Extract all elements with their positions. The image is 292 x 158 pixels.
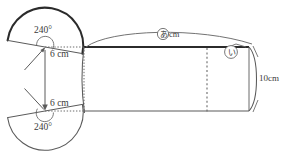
center-connector-arrowhead-down (42, 105, 48, 111)
arc-label-symbol-value: あ (160, 30, 168, 39)
height-value: 10cm (259, 73, 279, 83)
top-sector-angle-label: 240° (34, 26, 52, 36)
top-radius-value: 6 cm (50, 49, 69, 59)
depth-label-symbol-value: い (228, 48, 236, 57)
top-radius-arrow (25, 49, 45, 71)
top-radius-label: 6 cm (50, 50, 69, 60)
arc-label-symbol: あ (160, 31, 168, 39)
bottom-sector-radius-b (8, 111, 45, 118)
bottom-sector-angle-value: 240° (34, 122, 52, 132)
bottom-radius-value: 6 cm (50, 98, 69, 108)
geometry-figure (0, 0, 292, 158)
arc-length-unit-value: cm (169, 29, 179, 39)
bottom-sector-angle-label: 240° (34, 123, 52, 133)
arc-length-unit-label: cm (169, 30, 179, 39)
height-label: 10cm (259, 74, 279, 83)
top-sector-angle-value: 240° (34, 25, 52, 35)
bottom-radius-label: 6 cm (50, 99, 69, 109)
depth-label-symbol: い (228, 49, 236, 57)
body-right-cap-edge (249, 47, 257, 111)
bottom-radius-arrow (25, 89, 45, 110)
top-sector-radius-a (8, 40, 45, 47)
